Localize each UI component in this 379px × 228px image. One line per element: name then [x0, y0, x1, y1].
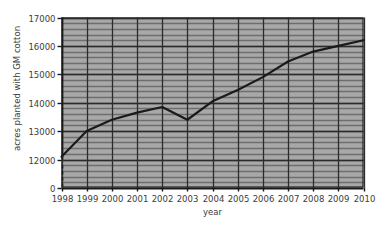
x-axis-tick-label: 2010: [354, 194, 376, 204]
y-axis-tick-label: 13000: [28, 127, 55, 137]
x-axis-tick-label: 2007: [278, 194, 300, 204]
x-axis-tick-label: 1998: [52, 194, 74, 204]
x-axis-tick-label: 2008: [303, 194, 325, 204]
y-axis-ticks: 0120001300014000150001600017000: [28, 14, 61, 194]
y-axis-tick-label: 17000: [28, 14, 55, 24]
x-axis-tick-label: 2002: [152, 194, 174, 204]
x-axis-tick-label: 2000: [102, 194, 124, 204]
y-axis-tick-label: 14000: [28, 99, 55, 109]
x-axis-tick-label: 2006: [253, 194, 275, 204]
y-axis-tick-label: 16000: [28, 42, 55, 52]
line-chart: 0120001300014000150001600017000199819992…: [0, 0, 379, 228]
y-axis-tick-label: 0: [50, 184, 55, 194]
x-axis-tick-label: 2001: [127, 194, 149, 204]
x-axis-tick-label: 2003: [177, 194, 199, 204]
x-axis-tick-label: 2004: [203, 194, 225, 204]
x-axis-title: year: [203, 207, 222, 217]
y-axis-tick-label: 12000: [28, 156, 55, 166]
y-axis-title: acres planted with GM cotton: [12, 26, 22, 151]
x-axis-tick-label: 2009: [328, 194, 350, 204]
x-axis-ticks: 1998199920002001200220032004200520062007…: [52, 188, 376, 204]
y-axis-tick-label: 15000: [28, 70, 55, 80]
x-axis-tick-label: 2005: [228, 194, 250, 204]
x-axis-tick-label: 1999: [77, 194, 99, 204]
chart-canvas: 0120001300014000150001600017000199819992…: [0, 0, 379, 228]
